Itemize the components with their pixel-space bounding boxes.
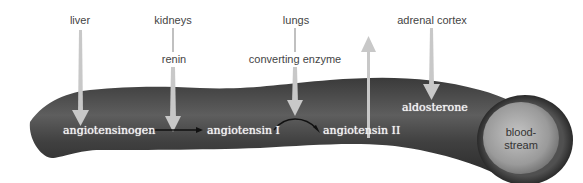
bloodstream-label-line1: blood- [504, 126, 538, 139]
organ-label-lungs: lungs [283, 15, 309, 26]
bloodstream-label-line2: stream [504, 139, 538, 152]
organ-label-kidneys: kidneys [154, 15, 191, 26]
liver-arrow-icon [72, 30, 89, 126]
molecule-label-angiotensin-i: angiotensin I [207, 125, 280, 136]
enzyme-label-converting-enzyme: converting enzyme [249, 54, 341, 65]
raas-diagram: liver kidneys lungs adrenal cortex renin… [0, 0, 583, 183]
molecule-label-angiotensinogen: angiotensinogen [63, 125, 155, 136]
organ-label-adrenal-cortex: adrenal cortex [397, 15, 467, 26]
organ-label-liver: liver [70, 15, 90, 26]
molecule-label-angiotensin-ii: angiotensin II [323, 125, 400, 136]
blood-vessel-illustration [0, 0, 583, 183]
enzyme-label-renin: renin [162, 54, 186, 65]
molecule-label-aldosterone: aldosterone [402, 102, 468, 113]
bloodstream-label: blood- stream [504, 126, 538, 151]
